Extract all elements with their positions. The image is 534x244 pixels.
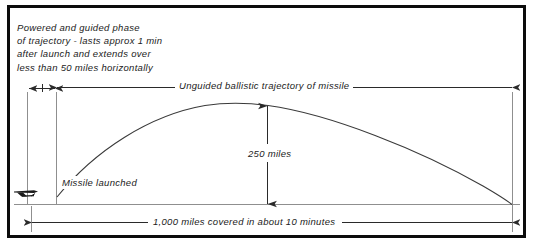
diagram-root: Powered and guided phase of trajectory -… bbox=[0, 0, 534, 244]
powered-phase-note-line-3: after launch and extends over bbox=[17, 47, 162, 60]
powered-phase-note-line-4: less than 50 miles horizontally bbox=[17, 61, 162, 74]
powered-phase-note-line-1: Powered and guided phase bbox=[17, 21, 162, 34]
missile-icon bbox=[14, 190, 38, 196]
powered-phase-note: Powered and guided phase of trajectory -… bbox=[17, 21, 162, 74]
missile-launched-label: Missile launched bbox=[60, 176, 139, 189]
powered-phase-note-line-2: of trajectory - lasts approx 1 min bbox=[17, 34, 162, 47]
unguided-trajectory-label: Unguided ballistic trajectory of missile bbox=[175, 79, 353, 92]
apex-height-label: 250 miles bbox=[243, 146, 296, 161]
range-label: 1,000 miles covered in about 10 minutes bbox=[148, 215, 340, 228]
